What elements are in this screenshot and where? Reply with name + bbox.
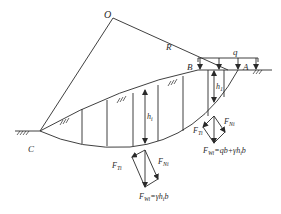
radius-line-oc: [40, 18, 113, 131]
slope-stability-diagram: O R B A C q hi h1 FTi FNi FWi=qb+γhib FT…: [0, 0, 281, 214]
label-hi: hi: [147, 112, 153, 122]
label-a: A: [242, 62, 249, 72]
label-fti-bottom: FTi: [111, 161, 122, 171]
label-r: R: [165, 42, 172, 52]
label-c: C: [28, 144, 35, 154]
force-polygon-top: [203, 116, 225, 143]
force-polygon-bottom: [132, 150, 158, 187]
label-fni-bottom: FNi: [157, 157, 169, 167]
label-q: q: [233, 47, 238, 57]
slope-surface: [40, 70, 198, 131]
label-h1: h1: [216, 82, 223, 92]
label-o: O: [104, 9, 111, 20]
label-fti-top: FTi: [192, 126, 203, 136]
label-fwi-top: FWi=qb+γhib: [202, 146, 246, 156]
label-fwi-bottom: FWi=γhib: [138, 192, 168, 202]
label-fni-top: FNi: [223, 117, 235, 127]
label-b: B: [187, 62, 193, 72]
